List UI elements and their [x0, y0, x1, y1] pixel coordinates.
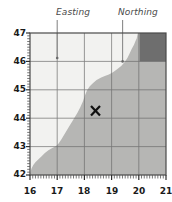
- map-grid-figure: Easting Northing 47 46 45 44 43 42 16 17…: [0, 0, 172, 202]
- easting-leader-dot: [56, 57, 59, 60]
- northing-leader-dot: [121, 60, 124, 63]
- dark-region: [140, 33, 166, 61]
- plot-canvas: [0, 0, 172, 202]
